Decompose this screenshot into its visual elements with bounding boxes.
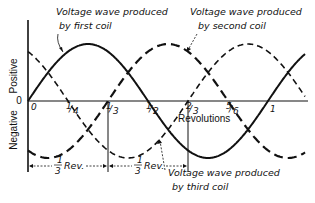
third-coil-label-line1: Voltage wave produced [168,167,281,178]
svg-text:2: 2 [153,106,159,116]
first-coil-leader-arrow [59,47,63,52]
svg-text:3: 3 [55,166,61,176]
x-tick-1-2: 1/2 [146,101,159,116]
svg-text:3: 3 [113,106,119,116]
second-coil-label-line1: Voltage wave produced [190,6,303,17]
positive-label: Positive [8,58,19,93]
zero-label: 0 [16,95,22,106]
x-tick-1: 1 [270,104,276,114]
svg-text:3: 3 [135,166,141,176]
second-coil-label-line2: by second coil [198,20,266,31]
one-third-rev-dimension: 13Rev. [29,155,107,176]
svg-text:6: 6 [233,106,239,116]
second-coil-leader [188,34,197,50]
first-coil-label-line1: Voltage wave produced [56,6,169,17]
three-phase-voltage-diagram: Positive 0 Negative 0 1/41/31/22/35/61 R… [0,0,315,203]
svg-text:4: 4 [73,106,79,116]
x-tick-1-4: 1/4 [66,101,79,116]
revolutions-label: Revolutions [178,113,230,124]
svg-text:1: 1 [137,155,143,165]
first-coil-label-line2: by first coil [59,20,112,31]
third-coil-label-line2: by third coil [172,181,229,192]
svg-text:1: 1 [57,155,63,165]
svg-text:1: 1 [270,104,276,114]
origin-tick-label: 0 [31,102,37,112]
svg-text:Rev.: Rev. [64,160,84,171]
x-tick-labels: 1/41/31/22/35/61 [66,101,276,116]
negative-label: Negative [8,110,19,150]
svg-text:Rev.: Rev. [144,160,164,171]
